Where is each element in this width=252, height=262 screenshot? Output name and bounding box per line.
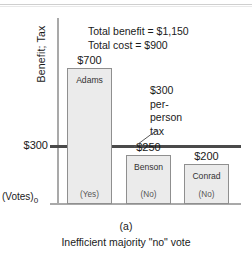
bar-value-conrad: $200 [184, 150, 229, 162]
origin-zero-text: 0 [34, 196, 38, 205]
bar-label-conrad: Conrad [185, 171, 228, 181]
tax-annotation-line-3: person [150, 111, 182, 125]
tax-annotation-line-1: $300 [150, 84, 182, 98]
bar-label-benson: Benson [127, 162, 170, 172]
caption-title: Inefficient majority "no" vote [0, 234, 252, 250]
bar-label-adams: Adams [68, 75, 111, 85]
tax-annotation-line-2: per- [150, 98, 182, 112]
bar-benson: Benson (No) [126, 155, 171, 204]
bar-vote-benson: (No) [127, 190, 170, 199]
y-axis-title: Benefit; Tax [35, 7, 47, 101]
total-benefit-text: Total benefit = $1,150 [88, 24, 189, 38]
figure-panel: Benefit; Tax Total benefit = $1,150 Tota… [0, 0, 252, 262]
bar-vote-conrad: (No) [185, 190, 228, 199]
total-cost-text: Total cost = $900 [88, 38, 189, 52]
bar-vote-adams: (Yes) [68, 190, 111, 199]
bar-adams: Adams (Yes) [67, 68, 112, 204]
totals-annotation: Total benefit = $1,150 Total cost = $900 [88, 24, 189, 52]
y-axis-tick-label-300: $300 [6, 139, 48, 151]
tax-annotation-leader-line [134, 130, 158, 148]
figure-top-rule [0, 4, 252, 5]
bar-conrad: Conrad (No) [184, 164, 229, 204]
origin-votes-label: (Votes)0 [2, 191, 38, 205]
caption-part-label: (a) [0, 218, 252, 234]
origin-votes-text: (Votes) [2, 191, 34, 202]
bar-value-adams: $700 [67, 54, 112, 66]
y-axis-line [57, 18, 59, 205]
figure-caption: (a) Inefficient majority "no" vote [0, 218, 252, 250]
